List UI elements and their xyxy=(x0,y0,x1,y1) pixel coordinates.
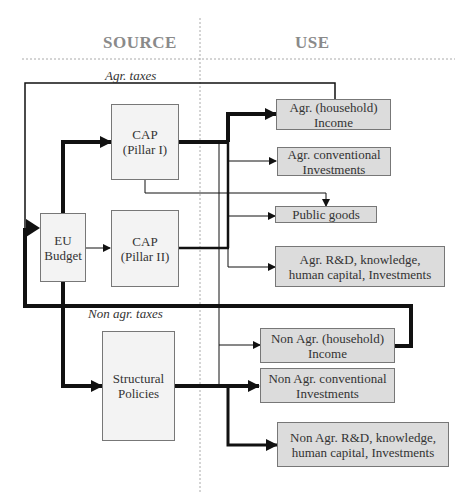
cap-pillar2-line1: CAP xyxy=(132,234,157,249)
agr-income-line2: Income xyxy=(314,115,353,130)
nonagr-rd-line1: Non Agr. R&D, knowledge, xyxy=(290,430,436,445)
agr-conventional-line2: Investments xyxy=(303,162,366,177)
eu-budget-line2: Budget xyxy=(44,248,82,263)
agr-rd-line1: Agr. R&D, knowledge, xyxy=(300,252,421,267)
cap-pillar2-line2: (Pillar II) xyxy=(121,249,170,264)
nonagr-income-line2: Income xyxy=(308,346,347,361)
agr-rd-line2: human capital, Investments xyxy=(289,267,432,282)
agr-conventional-box: Agr. conventional Investments xyxy=(277,147,391,176)
nonagr-conventional-line2: Investments xyxy=(296,386,359,401)
structural-line2: Policies xyxy=(118,386,159,401)
cap-pillar1-box: CAP (Pillar I) xyxy=(111,104,179,180)
public-goods-label: Public goods xyxy=(292,207,360,222)
cap-pillar1-line1: CAP xyxy=(132,127,157,142)
agr-conventional-line1: Agr. conventional xyxy=(287,147,380,162)
nonagr-conventional-line1: Non Agr. conventional xyxy=(268,371,386,386)
cap-pillar1-line2: (Pillar I) xyxy=(123,142,167,157)
eu-budget-line1: EU xyxy=(54,233,71,248)
structural-policies-box: Structural Policies xyxy=(102,331,175,441)
cap-pillar2-box: CAP (Pillar II) xyxy=(111,210,179,287)
non-agr-taxes-label: Non agr. taxes xyxy=(88,306,163,322)
nonagr-conventional-box: Non Agr. conventional Investments xyxy=(260,368,395,403)
agr-income-line1: Agr. (household) xyxy=(289,100,377,115)
agr-taxes-label: Agr. taxes xyxy=(105,68,156,84)
agr-income-box: Agr. (household) Income xyxy=(276,99,391,130)
public-goods-box: Public goods xyxy=(275,206,377,223)
nonagr-rd-box: Non Agr. R&D, knowledge, human capital, … xyxy=(277,422,449,467)
nonagr-rd-line2: human capital, Investments xyxy=(292,445,435,460)
nonagr-income-line1: Non Agr. (household) xyxy=(271,331,384,346)
structural-line1: Structural xyxy=(113,371,164,386)
eu-budget-box: EU Budget xyxy=(40,213,86,282)
nonagr-income-box: Non Agr. (household) Income xyxy=(260,328,395,363)
agr-rd-box: Agr. R&D, knowledge, human capital, Inve… xyxy=(275,246,445,287)
